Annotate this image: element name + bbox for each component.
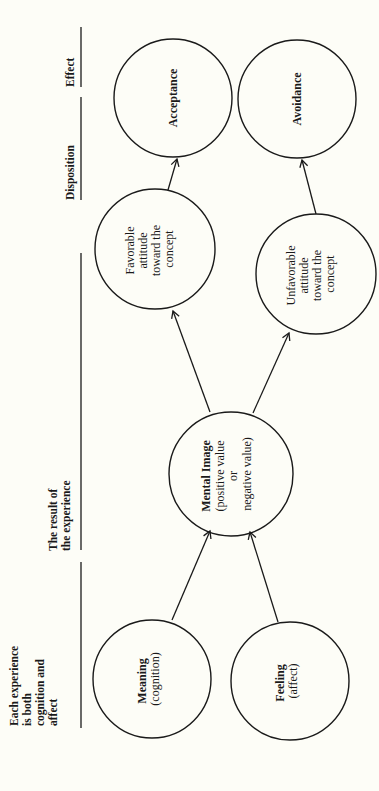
mental-image-line: negative value) (240, 437, 254, 511)
acceptance-label: Acceptance (166, 68, 180, 127)
experience-flow-diagram: Each experience is both cognition and af… (0, 0, 379, 791)
header-experience-line: cognition and (34, 659, 47, 726)
header-disposition: Disposition (64, 144, 77, 200)
header-effect-line: Effect (64, 57, 76, 87)
header-experience-line: affect (47, 698, 59, 726)
header-effect: Effect (64, 57, 76, 87)
header-disposition-line: Disposition (64, 144, 77, 200)
unfavorable-line: concept (323, 255, 337, 293)
feeling-label: Feeling (affect) (270, 660, 300, 701)
unfavorable-line: toward the (310, 250, 324, 301)
mental-image-title: Mental Image (199, 440, 213, 512)
header-result-line: the experience (60, 480, 73, 551)
feeling-title: Feeling (273, 664, 287, 701)
unfavorable-line: Unfavorable (284, 246, 298, 306)
favorable-line: attitude (136, 233, 150, 269)
mental-image-line: (positive value (213, 441, 227, 512)
header-experience-line: Each experience (8, 646, 21, 726)
avoidance-title: Avoidance (290, 72, 304, 126)
unfavorable-line: attitude (297, 258, 311, 294)
meaning-label: Meaning (cognition) (132, 652, 162, 705)
background (0, 0, 379, 791)
favorable-line: Favorable (123, 227, 137, 275)
header-result: The result of the experience (47, 480, 73, 551)
acceptance-title: Acceptance (166, 68, 180, 127)
meaning-title: Meaning (135, 658, 149, 703)
meaning-subtitle: (cognition) (148, 652, 162, 705)
header-experience-line: is both (21, 692, 33, 726)
favorable-line: concept (162, 230, 176, 268)
feeling-subtitle: (affect) (286, 663, 300, 698)
avoidance-label: Avoidance (290, 72, 304, 126)
header-result-line: The result of (47, 488, 59, 551)
mental-image-label: Mental Image (positive value or negative… (196, 436, 254, 512)
mental-image-line: or (226, 471, 240, 481)
favorable-line: toward the (149, 225, 163, 276)
